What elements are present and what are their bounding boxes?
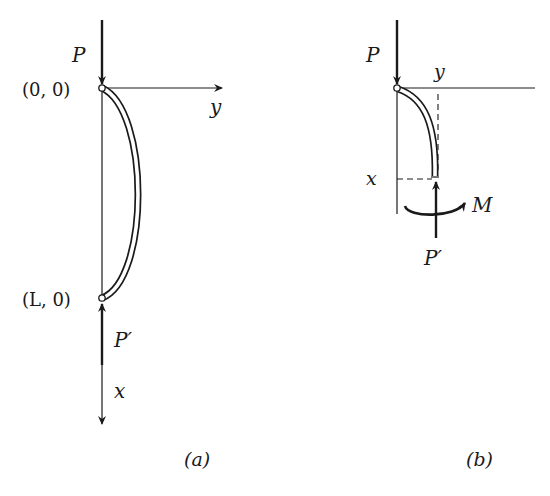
label-axis-y-b: y <box>433 60 445 82</box>
label-axis-x-b: x <box>366 167 377 189</box>
caption-b: (b) <box>466 448 493 470</box>
bottom-pin <box>99 295 105 301</box>
top-pin <box>99 85 105 91</box>
label-force-p-prime-b: P′ <box>423 246 442 270</box>
label-axis-y: y <box>209 95 222 119</box>
label-force-p-prime: P′ <box>113 328 132 352</box>
buckled-column <box>102 88 138 298</box>
label-force-p-b: P <box>365 43 380 67</box>
label-origin: (0, 0) <box>22 79 70 100</box>
label-end-point: (L, 0) <box>22 289 71 310</box>
label-axis-x: x <box>114 379 125 403</box>
top-pin-b <box>394 85 400 91</box>
figure-b: P y x M P′ (b) <box>365 20 535 470</box>
label-moment: M <box>471 193 493 217</box>
caption-a: (a) <box>184 448 210 470</box>
label-force-p: P <box>71 43 86 67</box>
figure-a: P (0, 0) y (L, 0) P′ x (a) <box>22 20 222 470</box>
